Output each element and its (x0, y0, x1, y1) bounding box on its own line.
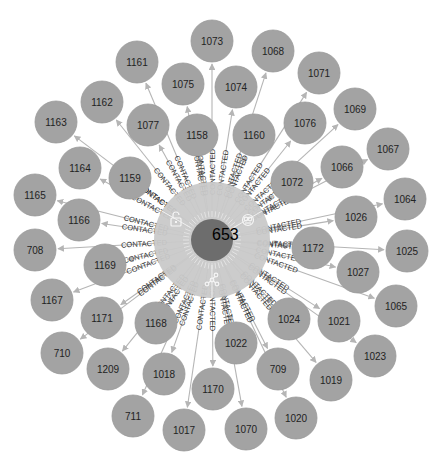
graph-node[interactable]: 1068 (252, 30, 294, 72)
graph-node[interactable]: 1075 (162, 63, 204, 105)
node-label: 711 (125, 411, 141, 422)
node-label: 1068 (262, 46, 285, 57)
graph-node[interactable]: 1160 (233, 114, 275, 156)
node-label: 1164 (69, 163, 91, 174)
graph-node[interactable]: 1021 (318, 300, 360, 342)
graph-canvas[interactable]: CONTACTEDCONTACTEDCONTACTEDCONTACTEDCONT… (0, 0, 437, 466)
node-label: 1171 (91, 313, 113, 324)
node-label: 1022 (225, 338, 248, 349)
graph-node[interactable]: 1065 (375, 285, 417, 327)
graph-node[interactable]: 1020 (275, 397, 317, 439)
node-label: 1209 (97, 364, 120, 375)
node-label: 1076 (294, 118, 317, 129)
graph-node[interactable]: 1017 (163, 409, 205, 451)
node-label: 1027 (347, 267, 370, 278)
graph-node[interactable]: 1073 (191, 20, 233, 62)
node-label: 1023 (364, 351, 387, 362)
node-label: 1072 (281, 177, 304, 188)
graph-node[interactable]: 1023 (354, 335, 396, 377)
graph-node[interactable]: 1169 (84, 244, 126, 286)
graph-node[interactable]: 1019 (310, 359, 352, 401)
graph-node[interactable]: 1025 (386, 230, 428, 272)
graph-node[interactable]: 1168 (135, 302, 177, 344)
graph-node[interactable]: 1158 (176, 114, 218, 156)
node-label: 1020 (285, 413, 308, 424)
graph-node[interactable]: 711 (112, 395, 154, 437)
node-label: 1160 (243, 130, 265, 141)
node-label: 1064 (394, 194, 417, 205)
node-label: 1024 (278, 314, 301, 325)
graph-node[interactable]: 1069 (334, 88, 376, 130)
node-label: 1163 (45, 117, 67, 128)
node-label: 1071 (308, 68, 331, 79)
graph-node[interactable]: 709 (257, 348, 299, 390)
node-label: 1074 (225, 82, 248, 93)
graph-node[interactable]: 1077 (127, 104, 169, 146)
node-label: 1165 (24, 190, 46, 201)
node-label: 708 (27, 245, 44, 256)
graph-node[interactable]: 1209 (87, 348, 129, 390)
graph-node[interactable]: 1172 (292, 227, 334, 269)
center-node-group[interactable]: 653 (154, 182, 270, 298)
graph-node[interactable]: 1162 (81, 81, 123, 123)
graph-node[interactable]: 1072 (271, 161, 313, 203)
node-label: 1168 (145, 318, 167, 329)
node-label: 1077 (137, 120, 160, 131)
graph-node[interactable]: 1070 (225, 408, 267, 450)
graph-node[interactable]: 1076 (284, 102, 326, 144)
graph-node[interactable]: 1161 (116, 41, 158, 83)
graph-node[interactable]: 1163 (35, 101, 77, 143)
center-node-label: 653 (212, 226, 239, 243)
graph-node[interactable]: 1026 (335, 196, 377, 238)
graph-node[interactable]: 1067 (367, 128, 409, 170)
graph-node[interactable]: 1071 (298, 52, 340, 94)
graph-node[interactable]: 1074 (215, 66, 257, 108)
node-label: 1025 (396, 246, 419, 257)
graph-node[interactable]: 1159 (109, 157, 151, 199)
node-label: 709 (270, 364, 287, 375)
graph-node[interactable]: 1166 (58, 199, 100, 241)
node-label: 710 (54, 348, 71, 359)
graph-node[interactable]: 1165 (14, 174, 56, 216)
node-label: 1172 (302, 243, 324, 254)
node-label: 1169 (94, 260, 116, 271)
node-label: 1166 (68, 215, 90, 226)
graph-node[interactable]: 1167 (31, 279, 73, 321)
node-label: 1018 (153, 369, 176, 380)
node-label: 1075 (172, 79, 195, 90)
node-label: 1158 (186, 130, 208, 141)
graph-node[interactable]: 1170 (192, 368, 234, 410)
node-label: 1162 (91, 97, 113, 108)
graph-node[interactable]: 1022 (215, 322, 257, 364)
node-label: 1065 (385, 301, 408, 312)
node-label: 1167 (41, 295, 63, 306)
graph-node[interactable]: 710 (41, 332, 83, 374)
node-label: 1161 (126, 57, 148, 68)
graph-node[interactable]: 708 (14, 229, 56, 271)
node-label: 1069 (344, 104, 367, 115)
graph-node[interactable]: 1066 (321, 146, 363, 188)
node-label: 1067 (377, 144, 400, 155)
graph-node[interactable]: 1164 (59, 147, 101, 189)
graph-node[interactable]: 1171 (81, 297, 123, 339)
graph-node[interactable]: 1018 (143, 353, 185, 395)
node-label: 1073 (201, 36, 224, 47)
node-label: 1021 (328, 316, 351, 327)
node-label: 1159 (119, 173, 141, 184)
node-label: 1026 (345, 212, 368, 223)
graph-node[interactable]: 1024 (268, 298, 310, 340)
node-label: 1019 (320, 375, 343, 386)
graph-node[interactable]: 1027 (337, 251, 379, 293)
node-label: 1170 (202, 384, 224, 395)
node-label: 1066 (331, 162, 354, 173)
graph-node[interactable]: 1064 (384, 178, 426, 220)
node-label: 1070 (235, 424, 258, 435)
node-label: 1017 (173, 425, 196, 436)
